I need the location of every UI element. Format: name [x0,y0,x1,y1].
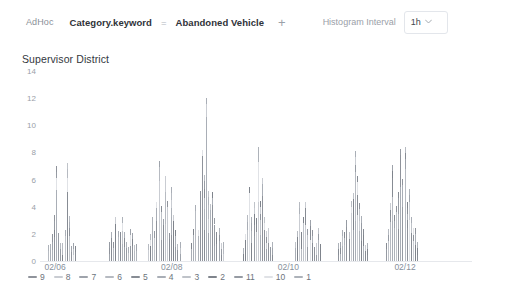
histogram-bar-segment[interactable] [396,212,397,261]
histogram-bar-segment[interactable] [357,182,358,195]
histogram-bar-segment[interactable] [310,226,311,240]
histogram-bar-segment[interactable] [167,207,168,261]
histogram-bar-segment[interactable] [266,237,267,243]
histogram-bar-segment[interactable] [413,241,414,261]
histogram-bar-segment[interactable] [223,254,224,261]
histogram-bar-segment[interactable] [73,249,74,255]
histogram-bar-segment[interactable] [48,245,49,251]
histogram-bar-segment[interactable] [216,232,217,238]
histogram-bar-segment[interactable] [351,207,352,213]
histogram-bar-segment[interactable] [359,203,360,209]
histogram-bar-segment[interactable] [247,215,248,221]
histogram-bar-segment[interactable] [212,198,213,204]
histogram-bar-segment[interactable] [109,254,110,261]
histogram-bar-segment[interactable] [394,221,395,227]
histogram-bar-segment[interactable] [247,222,248,230]
histogram-bar-segment[interactable] [264,230,265,261]
histogram-bar-segment[interactable] [318,240,319,261]
histogram-bar-segment[interactable] [120,238,121,261]
histogram-bar-segment[interactable] [407,228,408,261]
histogram-bar-segment[interactable] [50,244,51,250]
histogram-bar-segment[interactable] [148,250,149,261]
histogram-bar-segment[interactable] [256,224,257,232]
histogram-bar-segment[interactable] [342,236,343,246]
histogram-bar-segment[interactable] [173,221,174,261]
histogram-bar-segment[interactable] [173,215,174,221]
histogram-bar-segment[interactable] [355,172,356,221]
histogram-bar-segment[interactable] [392,197,393,221]
histogram-bar-segment[interactable] [340,254,341,261]
histogram-bar-segment[interactable] [342,230,343,236]
histogram-bar-segment[interactable] [417,255,418,261]
histogram-bar-segment[interactable] [338,249,339,255]
histogram-bar-segment[interactable] [260,214,261,220]
histogram-bar-segment[interactable] [388,241,389,261]
histogram-bar-segment[interactable] [301,249,302,261]
histogram-bar-segment[interactable] [180,248,181,254]
histogram-bar-segment[interactable] [56,190,57,261]
histogram-bar-segment[interactable] [264,223,265,230]
histogram-bar-segment[interactable] [200,197,201,213]
histogram-bar-segment[interactable] [159,161,160,167]
histogram-bar-segment[interactable] [262,178,263,184]
histogram-bar-segment[interactable] [413,235,414,241]
histogram-bar-segment[interactable] [126,248,127,261]
histogram-bar-segment[interactable] [346,227,347,262]
histogram-bar-segment[interactable] [312,236,313,243]
histogram-bar-segment[interactable] [405,153,406,159]
histogram-bar-segment[interactable] [260,220,261,236]
histogram-bar-segment[interactable] [390,210,391,216]
histogram-bar-segment[interactable] [165,176,166,182]
histogram-bar-segment[interactable] [122,244,123,261]
legend-item-2[interactable]: 2 [208,273,225,282]
histogram-bar-segment[interactable] [208,219,209,233]
histogram-bar-segment[interactable] [132,246,133,262]
histogram-bar-segment[interactable] [342,246,343,261]
histogram-bar-segment[interactable] [405,169,406,261]
histogram-bar-segment[interactable] [254,225,255,236]
histogram-bar-segment[interactable] [398,214,399,229]
histogram-bar-segment[interactable] [67,169,68,178]
histogram-bar-segment[interactable] [405,147,406,153]
histogram-bar-segment[interactable] [134,245,135,251]
histogram-bar-segment[interactable] [159,181,160,261]
histogram-bar-segment[interactable] [264,217,265,223]
histogram-bar-segment[interactable] [398,229,399,261]
histogram-bar-segment[interactable] [256,232,257,261]
plot-area[interactable] [40,72,472,262]
histogram-bar-segment[interactable] [152,217,153,223]
histogram-bar-segment[interactable] [113,242,114,248]
histogram-bar-segment[interactable] [132,239,133,245]
legend-item-1[interactable]: 1 [294,273,311,282]
histogram-bar-segment[interactable] [69,228,70,236]
histogram-bar-segment[interactable] [204,198,205,209]
histogram-bar-segment[interactable] [310,240,311,261]
histogram-bar-segment[interactable] [361,216,362,222]
histogram-bar-segment[interactable] [351,213,352,226]
histogram-bar-segment[interactable] [407,202,408,208]
histogram-bar-segment[interactable] [128,247,129,253]
histogram-bar-segment[interactable] [361,241,362,261]
histogram-bar-segment[interactable] [154,238,155,251]
histogram-bar-segment[interactable] [295,242,296,248]
histogram-bar-segment[interactable] [314,253,315,261]
histogram-bar-segment[interactable] [52,234,53,242]
histogram-bar-segment[interactable] [52,250,53,261]
histogram-bar-segment[interactable] [409,202,410,220]
legend-item-3[interactable]: 3 [182,273,199,282]
histogram-bar-segment[interactable] [175,236,176,247]
histogram-bar-segment[interactable] [357,215,358,261]
legend-item-9[interactable]: 9 [28,273,45,282]
histogram-bar-segment[interactable] [122,231,123,244]
histogram-bar-segment[interactable] [52,242,53,250]
histogram-bar-segment[interactable] [318,228,319,234]
histogram-bar-segment[interactable] [62,255,63,261]
histogram-bar-segment[interactable] [193,229,194,235]
histogram-bar-segment[interactable] [113,248,114,254]
histogram-bar-segment[interactable] [262,184,263,196]
histogram-bar-segment[interactable] [150,240,151,246]
histogram-bar-segment[interactable] [175,230,176,236]
histogram-bar-segment[interactable] [204,175,205,181]
histogram-bar-segment[interactable] [320,244,321,250]
histogram-bar-segment[interactable] [307,229,308,235]
